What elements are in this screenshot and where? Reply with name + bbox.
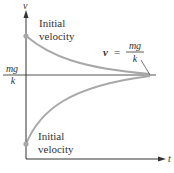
asymptote-denominator: k [11, 75, 16, 86]
equation-equals: = [114, 46, 120, 58]
equation-numerator: mg [129, 40, 141, 51]
equation-lhs: v [103, 46, 108, 58]
v-axis-arrow-icon [24, 10, 29, 18]
upper-annotation-line1: Initial [39, 17, 65, 29]
diagram-canvas: v t mg k v = mg k Initial velocity Initi… [0, 0, 174, 173]
t-axis-arrow-icon [158, 157, 166, 162]
asymptote-numerator: mg [6, 63, 18, 74]
equation-denominator: k [133, 53, 138, 64]
v-axis-label: v [23, 0, 28, 11]
upper-annotation-line2: velocity [39, 30, 75, 42]
lower-annotation-line2: velocity [38, 143, 74, 155]
velocity-diagram: v t mg k v = mg k Initial velocity Initi… [0, 0, 174, 173]
lower-initial-point [23, 141, 28, 146]
lower-annotation-line1: Initial [38, 130, 64, 142]
upper-initial-point [23, 33, 28, 38]
t-axis-label: t [168, 153, 171, 164]
